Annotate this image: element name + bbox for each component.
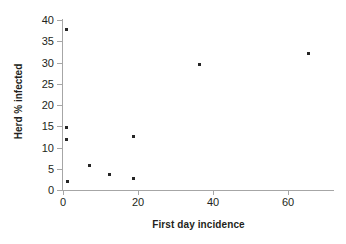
- data-point: [307, 52, 310, 55]
- data-point: [132, 135, 135, 138]
- data-point: [65, 138, 68, 141]
- data-point: [198, 63, 201, 66]
- data-point: [132, 177, 135, 180]
- data-point: [65, 28, 68, 31]
- scatter-chart: 0510152025303540 0204060 Herd % infected…: [0, 0, 346, 244]
- data-point: [65, 126, 68, 129]
- plot-area: [0, 0, 346, 244]
- data-point: [88, 164, 91, 167]
- data-point: [66, 180, 69, 183]
- data-point: [108, 173, 111, 176]
